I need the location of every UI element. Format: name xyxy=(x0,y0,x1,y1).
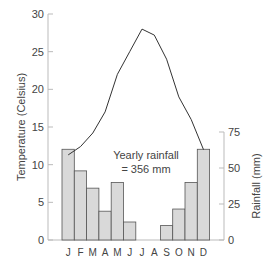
left-tick-label: 5 xyxy=(38,196,44,208)
month-label: F xyxy=(77,247,83,258)
month-label: N xyxy=(188,247,195,258)
month-label: D xyxy=(200,247,207,258)
month-label: O xyxy=(175,247,183,258)
left-tick-label: 15 xyxy=(32,121,44,133)
y2-axis-label: Rainfall (mm) xyxy=(250,153,262,218)
annotation-line1: Yearly rainfall xyxy=(113,149,179,161)
rainfall-bar xyxy=(99,211,111,240)
month-label: J xyxy=(127,247,132,258)
temperature-line xyxy=(68,29,203,155)
month-label: A xyxy=(151,247,158,258)
month-label: A xyxy=(102,247,109,258)
right-tick-label: 75 xyxy=(228,126,240,138)
month-label: J xyxy=(139,247,144,258)
month-label: J xyxy=(66,247,71,258)
rainfall-bar xyxy=(160,226,172,240)
rainfall-bar xyxy=(74,171,86,240)
rainfall-bar xyxy=(197,149,209,240)
month-label: M xyxy=(89,247,97,258)
month-label: M xyxy=(113,247,121,258)
x-axis-labels: JFMAMJJASOND xyxy=(66,247,207,258)
right-y-axis: 0255075 xyxy=(219,126,240,246)
annotation-line2: = 356 mm xyxy=(121,163,170,175)
left-tick-label: 10 xyxy=(32,159,44,171)
chart-svg: 051015202530 0255075 JFMAMJJASOND Yearly… xyxy=(0,0,270,264)
rainfall-bar xyxy=(111,182,123,240)
rainfall-bar xyxy=(87,188,99,240)
right-tick-label: 50 xyxy=(228,162,240,174)
left-tick-label: 30 xyxy=(32,8,44,20)
rainfall-bar xyxy=(173,209,185,240)
left-tick-label: 25 xyxy=(32,46,44,58)
rainfall-bar xyxy=(185,182,197,240)
left-tick-label: 0 xyxy=(38,234,44,246)
month-label: S xyxy=(163,247,170,258)
right-tick-label: 0 xyxy=(228,234,234,246)
left-tick-label: 20 xyxy=(32,83,44,95)
rainfall-bar xyxy=(124,222,136,240)
right-tick-label: 25 xyxy=(228,198,240,210)
y-axis-label: Temperature (Celsius) xyxy=(15,73,27,181)
rainfall-bar xyxy=(62,149,74,240)
climate-chart: 051015202530 0255075 JFMAMJJASOND Yearly… xyxy=(0,0,270,264)
